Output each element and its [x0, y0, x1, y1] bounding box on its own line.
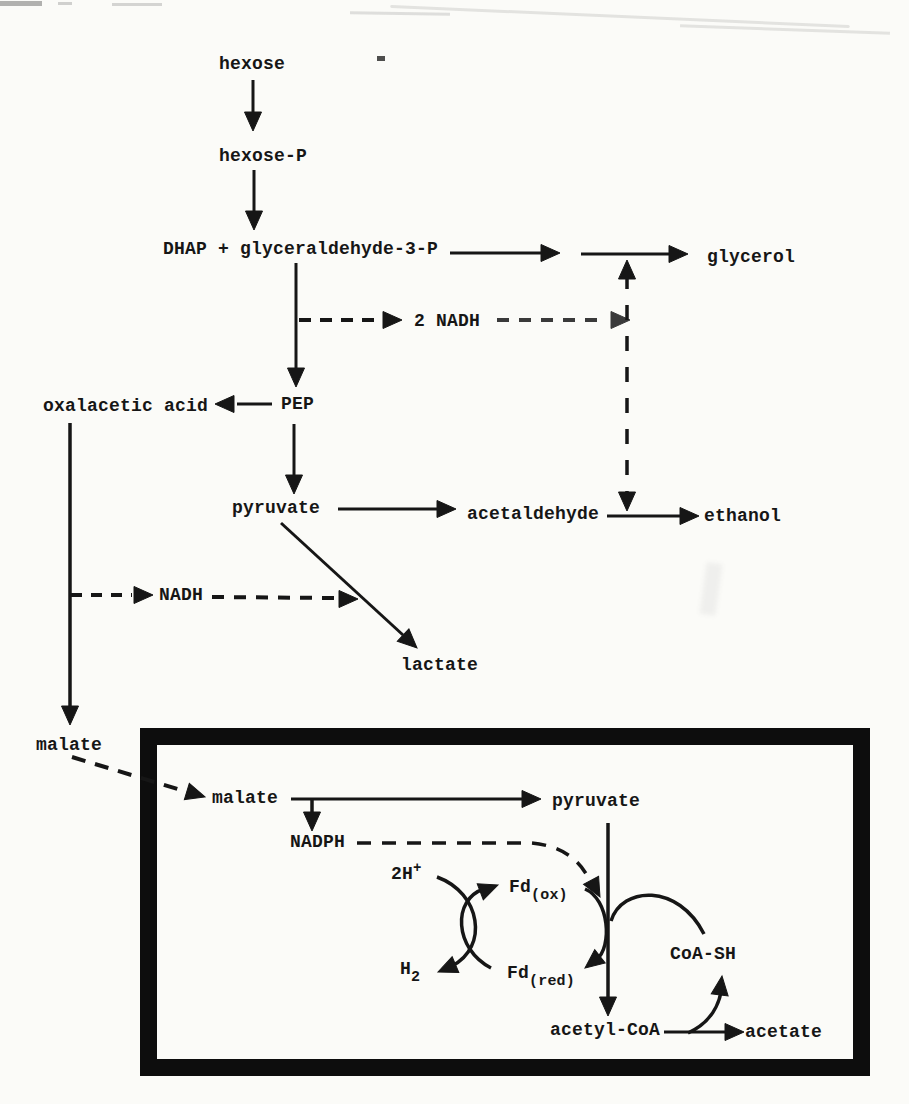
arrow-pyruvate-to-acetylcoa: [600, 823, 617, 1016]
node-malate-outer: malate: [36, 735, 102, 756]
node-hexose-p: hexose-P: [219, 146, 307, 167]
dashed-arrow-g3p-to-2nadh: [299, 312, 402, 329]
node-pep: PEP: [281, 394, 314, 415]
arrow-pep-to-oxalacetic: [215, 396, 272, 413]
dashed-arrow-nadh-shuttle-vertical: [619, 260, 636, 511]
node-dhap-g3p: DHAP + glyceraldehyde-3-P: [163, 239, 438, 260]
curve-2h-to-h2: [435, 877, 476, 980]
arrow-oxalacetic-to-malate: [62, 423, 79, 725]
arrow-hexose-to-hexose-p: [245, 80, 262, 131]
boxed-compartment: [149, 737, 862, 1068]
arrow-acetaldehyde-to-ethanol: [607, 508, 699, 525]
node-hexose: hexose: [219, 54, 285, 75]
arrow-malate-to-pyruvate-boxed: [291, 791, 541, 808]
pathway-diagram: hexose hexose-P DHAP + glyceraldehyde-3-…: [0, 0, 909, 1104]
node-fd-red: Fd(red): [507, 963, 575, 984]
node-h2: H2: [400, 959, 420, 980]
node-acetaldehyde: acetaldehyde: [467, 504, 599, 525]
node-lactate: lactate: [401, 655, 478, 676]
dashed-arrow-nadh-to-lactate-branch: [212, 591, 358, 608]
node-2h-plus: 2H+: [391, 864, 422, 885]
node-fd-ox: Fd(ox): [509, 877, 568, 898]
dashed-arrow-to-nadh: [71, 587, 153, 604]
node-glycerol: glycerol: [707, 247, 795, 268]
node-nadh: NADH: [159, 585, 203, 606]
dashed-arrow-to-nadph: [304, 799, 321, 831]
arrow-g3p-right-segment-1: [450, 245, 560, 262]
node-ethanol: ethanol: [704, 506, 781, 527]
node-2-nadh: 2 NADH: [414, 311, 480, 332]
dashed-arrow-malate-into-box: [72, 757, 207, 805]
curve-fdox-to-fdred: [580, 889, 607, 975]
arrow-g3p-to-pep: [288, 263, 305, 387]
node-acetate: acetate: [745, 1022, 822, 1043]
curve-to-coash: [688, 975, 730, 1033]
arrow-pep-to-pyruvate: [286, 424, 303, 494]
node-nadph: NADPH: [290, 832, 345, 853]
arrow-hexose-p-to-dhap: [246, 170, 263, 230]
node-malate-boxed: malate: [212, 788, 278, 809]
arrow-to-glycerol: [581, 246, 688, 263]
node-pyruvate-boxed: pyruvate: [552, 791, 640, 812]
node-oxalacetic-acid: oxalacetic acid: [43, 396, 208, 417]
arrow-pyruvate-to-acetaldehyde: [338, 501, 456, 518]
diagram-wires: [0, 0, 909, 1104]
arrow-pyruvate-to-lactate: [281, 523, 423, 654]
arrow-acetylcoa-to-acetate: [664, 1024, 744, 1041]
node-acetyl-coa: acetyl-CoA: [550, 1020, 660, 1041]
dashed-arrow-2nadh-to-glycerol-branch: [497, 312, 630, 329]
curve-coash-input: [611, 895, 704, 934]
node-coa-sh: CoA-SH: [670, 944, 736, 965]
node-pyruvate: pyruvate: [232, 498, 320, 519]
